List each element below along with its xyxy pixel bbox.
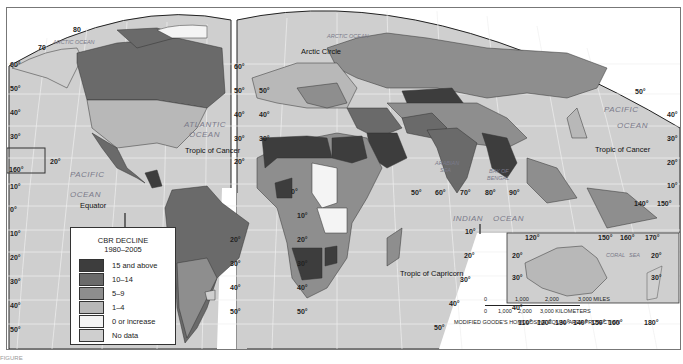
lat-label: 30° xyxy=(512,274,523,281)
lat-label: 10° xyxy=(465,228,476,235)
atlantic-ocean-label-2: OCEAN xyxy=(189,130,220,139)
lat-label: 40° xyxy=(297,284,308,291)
indian-ocean-label: INDIAN xyxy=(453,214,483,223)
coral-sea-label-2: SEA xyxy=(629,252,640,258)
arabian-sea-label-2: SEA xyxy=(440,167,451,173)
lat-label: 40° xyxy=(259,111,270,118)
lat-label: 40° xyxy=(10,302,21,309)
lat-label: 40° xyxy=(230,284,241,291)
scale-miles-tick: 2,000 xyxy=(545,296,559,302)
scale-km-tick: 2,000 xyxy=(518,308,532,314)
scale-km-tick: 3,000 KILOMETERS xyxy=(540,308,591,314)
lat-label: 10° xyxy=(10,183,21,190)
arctic-ocean-label-right: ARCTIC OCEAN xyxy=(327,33,369,39)
lat-label: 50° xyxy=(434,324,445,331)
lat-label: 40° xyxy=(667,111,678,118)
lat-label: 80 xyxy=(73,26,81,33)
lon-label: 160° xyxy=(9,166,23,173)
lat-label: 20° xyxy=(464,252,475,259)
indian-ocean-label-2: OCEAN xyxy=(493,214,524,223)
lat-label: 30° xyxy=(651,274,662,281)
lon-label: 170° xyxy=(645,234,659,241)
lat-label: 20° xyxy=(234,158,245,165)
legend-swatch xyxy=(79,329,104,342)
lat-label: 20° xyxy=(297,236,308,243)
pacific-ocean-label-right-2: OCEAN xyxy=(617,121,648,130)
tropic-of-capricorn-label: Tropic of Capricorn xyxy=(400,269,464,278)
projection-label: MODIFIED GOODE'S HOMOLOSINE EQUAL-AREA P… xyxy=(454,319,620,325)
lat-label: 50° xyxy=(234,87,245,94)
lon-label: 120° xyxy=(525,234,539,241)
legend-swatch xyxy=(79,301,104,314)
scale-km-tick: 0 xyxy=(484,308,487,314)
lon-label: 50° xyxy=(411,189,422,196)
scale-miles-tick: 3,000 MILES xyxy=(578,296,610,302)
lon-label: 150° xyxy=(657,200,671,207)
legend-item-10-14: 10–14 xyxy=(79,273,171,287)
pacific-ocean-label-right: PACIFIC xyxy=(604,105,638,114)
lon-label: 160° xyxy=(620,234,634,241)
lat-label: 50° xyxy=(635,88,646,95)
lat-label: 20° xyxy=(667,159,678,166)
lat-label: 50° xyxy=(297,308,308,315)
lat-label: 30° xyxy=(10,133,21,140)
lat-label: 30° xyxy=(259,135,270,142)
figure-caption: FIGURE xyxy=(0,355,23,361)
legend-item-5-9: 5–9 xyxy=(79,287,171,301)
lat-label: 20° xyxy=(10,254,21,261)
lat-label: 10° xyxy=(297,212,308,219)
lat-label: 30° xyxy=(234,135,245,142)
lat-label: 20° xyxy=(512,252,523,259)
legend-subtitle: 1980–2005 xyxy=(71,245,175,254)
lat-label: 0° xyxy=(10,206,17,213)
lat-label: 20° xyxy=(230,236,241,243)
legend-item-0-or-increase: 0 or increase xyxy=(79,315,171,329)
arabian-sea-label: ARABIAN xyxy=(435,160,459,166)
arctic-ocean-label-left: ARCTIC OCEAN xyxy=(53,39,95,45)
pacific-ocean-label-left-2: OCEAN xyxy=(70,190,101,199)
lat-label: 20° xyxy=(651,252,662,259)
lat-label: 60° xyxy=(10,61,21,68)
lon-label: 90° xyxy=(509,189,520,196)
lat-label: 60° xyxy=(234,63,245,70)
bay-of-bengal-label-2: BENGAL xyxy=(487,175,509,181)
lon-label: 80° xyxy=(485,189,496,196)
equator-label: Equator xyxy=(80,201,106,210)
arctic-circle-label: Arctic Circle xyxy=(301,47,341,56)
lat-label: 30° xyxy=(10,278,21,285)
legend-item-no-data: No data xyxy=(79,329,171,343)
legend-swatch xyxy=(79,315,104,328)
lat-label: 30° xyxy=(460,276,471,283)
legend-label: No data xyxy=(112,331,138,340)
legend-label: 5–9 xyxy=(112,289,125,298)
lon-label: 0° xyxy=(291,188,298,195)
lat-label: 50° xyxy=(230,308,241,315)
scale-km-tick: 1,000 xyxy=(498,308,512,314)
lon-label: 60° xyxy=(435,189,446,196)
lat-label: 30° xyxy=(667,135,678,142)
tropic-of-cancer-label-right: Tropic of Cancer xyxy=(595,145,650,154)
lat-label: 40° xyxy=(449,300,460,307)
scale-miles-tick: 1,000 xyxy=(515,296,529,302)
lat-label: 20° xyxy=(50,158,61,165)
lat-label: 50° xyxy=(10,326,21,333)
legend-label: 0 or increase xyxy=(112,317,155,326)
australia-inset xyxy=(507,233,679,303)
lat-label: 10° xyxy=(667,182,678,189)
legend-swatch xyxy=(79,273,104,286)
lat-label: 40° xyxy=(10,109,21,116)
lat-label: 50° xyxy=(10,85,21,92)
legend-item-15-and-above: 15 and above xyxy=(79,259,171,273)
lat-label: 30° xyxy=(297,260,308,267)
lon-label: 150° xyxy=(598,234,612,241)
atlantic-ocean-label: ATLANTIC xyxy=(184,120,226,129)
lat-label: 30° xyxy=(230,260,241,267)
lat-label: 10° xyxy=(10,230,21,237)
legend: CBR DECLINE 1980–2005 15 and above 10–14… xyxy=(70,227,176,345)
legend-swatch xyxy=(79,287,104,300)
lon-label: 140° xyxy=(634,200,648,207)
legend-title: CBR DECLINE xyxy=(71,236,175,245)
legend-label: 10–14 xyxy=(112,275,133,284)
bay-of-bengal-label: BAY OF xyxy=(489,168,509,174)
lat-label: 70 xyxy=(38,44,46,51)
